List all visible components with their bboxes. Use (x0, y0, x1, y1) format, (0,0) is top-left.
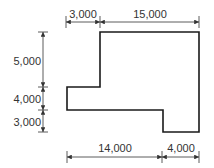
dim-top-right: 15,000 (133, 8, 167, 20)
dim-left-middle: 4,000 (13, 93, 41, 105)
dim-left-bottom: 3,000 (13, 116, 41, 128)
dim-top-left: 3,000 (69, 8, 97, 20)
shape-outline (67, 32, 199, 132)
dim-bottom-right: 4,000 (167, 142, 195, 154)
dim-left-top: 5,000 (13, 55, 41, 67)
floor-plan-diagram: 3,000 15,000 5,000 4,000 3,000 14,000 4,… (0, 0, 214, 168)
dim-bottom-left: 14,000 (98, 142, 132, 154)
